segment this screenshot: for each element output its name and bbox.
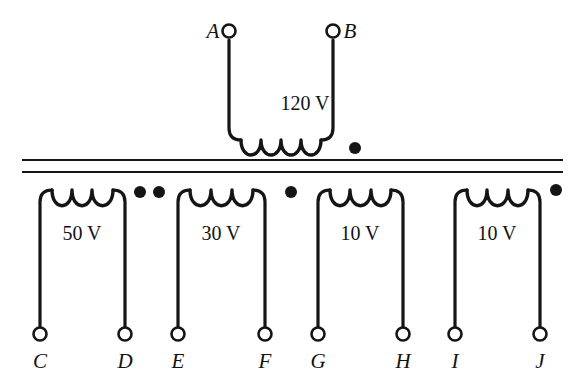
secondary-30v: E F 30 V: [171, 186, 297, 373]
terminal-c[interactable]: [34, 328, 47, 341]
primary-coil: [241, 140, 321, 155]
secondary-50v: C D 50 V: [33, 186, 165, 373]
secondary-10v-first-voltage-label: 10 V: [340, 222, 380, 244]
secondary-30v-voltage-label: 30 V: [201, 222, 241, 244]
terminal-e[interactable]: [172, 328, 185, 341]
terminal-j-label: J: [535, 349, 546, 373]
terminal-g-label: G: [310, 349, 325, 373]
secondary-10v-second-lead-left: [455, 190, 467, 327]
secondary-10v-second-coil: [467, 190, 528, 206]
terminal-b-label: B: [344, 19, 357, 43]
terminal-f[interactable]: [259, 328, 272, 341]
secondary-50v-polarity-dot-2: [153, 186, 165, 198]
secondary-50v-lead-right: [113, 190, 125, 327]
secondary-10v-first-coil: [330, 190, 391, 206]
secondary-10v-second-voltage-label: 10 V: [477, 222, 517, 244]
secondary-30v-lead-left: [178, 190, 190, 327]
secondary-10v-second-lead-right: [528, 190, 540, 327]
terminal-a-label: A: [205, 19, 220, 43]
secondary-30v-lead-right: [253, 190, 265, 327]
terminal-d-label: D: [116, 349, 132, 373]
primary-winding: A B 120 V: [205, 19, 361, 155]
secondary-50v-coil: [52, 190, 113, 206]
terminal-g[interactable]: [312, 328, 325, 341]
terminal-j[interactable]: [534, 328, 547, 341]
terminal-c-label: C: [33, 349, 48, 373]
terminal-f-label: F: [258, 349, 272, 373]
transformer-core: [22, 160, 563, 172]
secondary-10v-first-lead-left: [318, 190, 330, 327]
secondary-30v-coil: [190, 190, 253, 206]
terminal-a[interactable]: [223, 25, 236, 38]
transformer-schematic: A B 120 V C D 50 V: [0, 0, 585, 389]
terminal-h-label: H: [394, 349, 412, 373]
primary-lead-b: [321, 40, 333, 140]
secondary-10v-second: I J 10 V: [449, 184, 563, 373]
secondary-50v-voltage-label: 50 V: [62, 222, 102, 244]
terminal-i[interactable]: [449, 328, 462, 341]
secondary-10v-first-lead-right: [391, 190, 403, 327]
secondary-50v-polarity-dot-1: [134, 186, 146, 198]
terminal-h[interactable]: [397, 328, 410, 341]
terminal-b[interactable]: [327, 25, 340, 38]
transformer-diagram: A B 120 V C D 50 V: [0, 0, 585, 389]
primary-lead-a: [229, 40, 241, 140]
secondary-10v-first: G H 10 V: [310, 190, 412, 373]
secondary-50v-lead-left: [40, 190, 52, 327]
secondary-10v-second-polarity-dot: [550, 184, 562, 196]
terminal-i-label: I: [451, 349, 460, 373]
secondary-30v-polarity-dot: [285, 186, 297, 198]
primary-polarity-dot: [349, 142, 361, 154]
terminal-d[interactable]: [119, 328, 132, 341]
primary-voltage-label: 120 V: [280, 92, 330, 114]
terminal-e-label: E: [171, 349, 185, 373]
